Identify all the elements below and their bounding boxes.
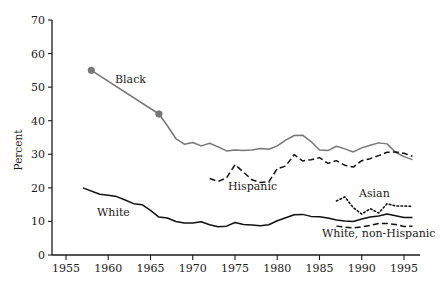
series-label-hispanic: Hispanic (228, 180, 277, 193)
y-tick-label: 20 (31, 182, 45, 195)
y-axis-title: Percent (12, 129, 24, 171)
x-tick-label: 1990 (348, 262, 376, 275)
y-tick-label: 10 (31, 215, 45, 228)
x-tick-label: 1965 (137, 262, 165, 275)
y-tick-label: 50 (31, 81, 45, 94)
series-marker-black (156, 111, 162, 117)
chart-container: 010203040506070 195519601965197019751980… (0, 0, 443, 289)
x-tick-label: 1980 (263, 262, 291, 275)
x-tick-label: 1985 (306, 262, 334, 275)
x-axis-tick-labels: 195519601965197019751980198519901995 (52, 262, 418, 275)
x-tick-label: 1960 (94, 262, 122, 275)
series-label-asian: Asian (358, 187, 390, 200)
x-tick-label: 1955 (52, 262, 80, 275)
y-tick-label: 0 (38, 249, 45, 262)
x-tick-label: 1970 (179, 262, 207, 275)
y-tick-label: 60 (31, 48, 45, 61)
series-label-white: White (97, 206, 130, 219)
series-label-white-non-hispanic: White, non-Hispanic (322, 227, 435, 240)
x-tick-label: 1975 (221, 262, 249, 275)
x-tick-label: 1995 (390, 262, 418, 275)
y-tick-label: 30 (31, 148, 45, 161)
y-tick-label: 70 (31, 14, 45, 27)
y-tick-label: 40 (31, 115, 45, 128)
series-label-black: Black (115, 73, 146, 86)
series-marker-black (88, 67, 94, 73)
chart-background (0, 0, 443, 289)
line-chart: 010203040506070 195519601965197019751980… (0, 0, 443, 289)
